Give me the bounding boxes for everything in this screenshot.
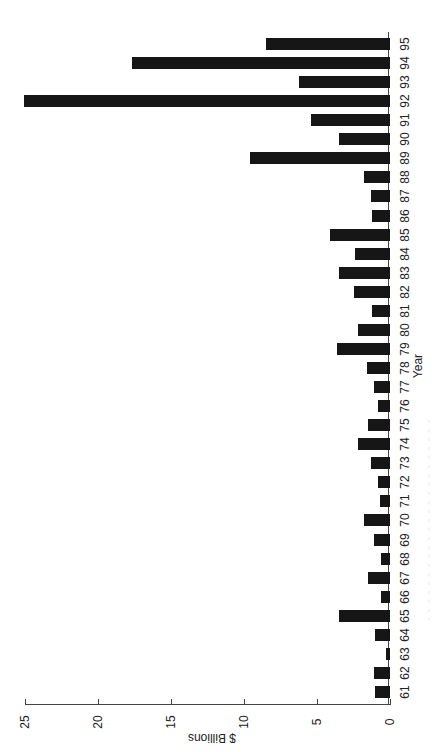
year-label-90: 90 <box>399 131 411 147</box>
year-label-76: 76 <box>399 398 411 414</box>
bar-86 <box>372 210 390 222</box>
bar-81 <box>372 305 390 317</box>
year-label-94: 94 <box>399 55 411 71</box>
bar-82 <box>354 286 391 298</box>
year-label-88: 88 <box>399 169 411 185</box>
value-tick-20 <box>98 699 99 704</box>
bar-chart: 6162636465666768697071727374757677787980… <box>0 0 436 752</box>
year-label-89: 89 <box>399 150 411 166</box>
value-tick-25 <box>25 699 26 704</box>
bar-62 <box>374 667 390 679</box>
year-label-74: 74 <box>399 436 411 452</box>
year-label-71: 71 <box>399 493 411 509</box>
year-label-83: 83 <box>399 265 411 281</box>
value-tick-label-15: 15 <box>165 712 177 732</box>
bar-80 <box>358 324 390 336</box>
bar-68 <box>381 553 390 565</box>
year-label-84: 84 <box>399 246 411 262</box>
value-tick-label-25: 25 <box>19 712 31 732</box>
value-tick-label-0: 0 <box>384 712 396 732</box>
bar-70 <box>364 514 390 526</box>
bar-64 <box>375 629 390 641</box>
value-tick-0 <box>390 699 391 704</box>
bar-84 <box>355 248 390 260</box>
year-label-72: 72 <box>399 474 411 490</box>
year-label-81: 81 <box>399 303 411 319</box>
year-label-73: 73 <box>399 455 411 471</box>
bar-89 <box>250 152 390 164</box>
bar-63 <box>386 648 390 660</box>
bar-93 <box>299 76 390 88</box>
bar-78 <box>367 362 390 374</box>
year-label-68: 68 <box>399 551 411 567</box>
year-label-69: 69 <box>399 532 411 548</box>
year-label-91: 91 <box>399 112 411 128</box>
year-label-80: 80 <box>399 322 411 338</box>
category-axis-title: Year <box>412 348 424 384</box>
value-axis-title: $ Billions <box>172 732 252 744</box>
bar-85 <box>330 229 390 241</box>
value-tick-label-10: 10 <box>238 712 250 732</box>
bar-71 <box>380 495 390 507</box>
year-label-95: 95 <box>399 36 411 52</box>
year-label-62: 62 <box>399 665 411 681</box>
bar-72 <box>378 476 390 488</box>
bar-95 <box>266 38 390 50</box>
bar-65 <box>339 610 390 622</box>
value-axis-line <box>25 704 391 705</box>
bar-83 <box>339 267 390 279</box>
bar-77 <box>374 381 390 393</box>
bar-76 <box>378 400 390 412</box>
year-label-92: 92 <box>399 93 411 109</box>
bar-74 <box>358 438 390 450</box>
bar-75 <box>368 419 390 431</box>
year-label-61: 61 <box>399 684 411 700</box>
bar-90 <box>339 133 390 145</box>
year-label-75: 75 <box>399 417 411 433</box>
year-label-65: 65 <box>399 608 411 624</box>
bar-91 <box>311 114 390 126</box>
scan-artifact <box>428 420 430 620</box>
value-tick-label-20: 20 <box>92 712 104 732</box>
bar-88 <box>364 171 390 183</box>
value-tick-10 <box>244 699 245 704</box>
year-label-67: 67 <box>399 570 411 586</box>
value-tick-15 <box>171 699 172 704</box>
bar-61 <box>375 686 390 698</box>
year-label-77: 77 <box>399 379 411 395</box>
value-tick-5 <box>317 699 318 704</box>
value-tick-label-5: 5 <box>311 712 323 732</box>
year-label-87: 87 <box>399 188 411 204</box>
year-label-86: 86 <box>399 208 411 224</box>
bar-94 <box>132 57 390 69</box>
year-label-82: 82 <box>399 284 411 300</box>
bar-67 <box>368 572 390 584</box>
year-label-93: 93 <box>399 74 411 90</box>
year-label-78: 78 <box>399 360 411 376</box>
year-label-70: 70 <box>399 512 411 528</box>
year-label-66: 66 <box>399 589 411 605</box>
bar-69 <box>374 534 390 546</box>
bar-87 <box>371 190 390 202</box>
year-label-64: 64 <box>399 627 411 643</box>
bar-66 <box>381 591 390 603</box>
year-label-63: 63 <box>399 646 411 662</box>
bar-92 <box>24 95 390 107</box>
bar-73 <box>371 457 390 469</box>
year-label-79: 79 <box>399 341 411 357</box>
year-label-85: 85 <box>399 227 411 243</box>
bar-79 <box>337 343 390 355</box>
